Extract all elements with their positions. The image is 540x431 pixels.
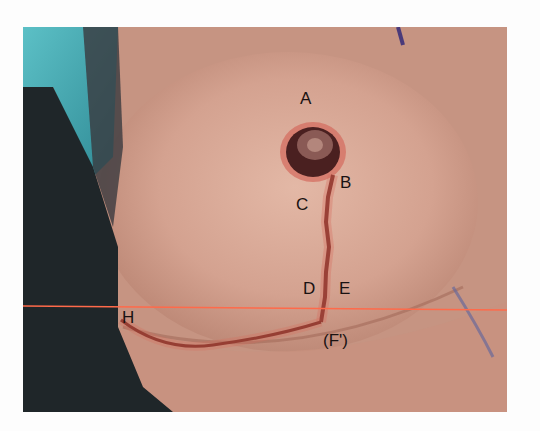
- label-D: D: [303, 280, 315, 297]
- photo-illustration: [23, 27, 507, 412]
- label-C: C: [296, 196, 308, 213]
- label-B: B: [340, 174, 351, 191]
- label-F-prime: (F'): [323, 332, 348, 349]
- clinical-photo: [23, 27, 507, 412]
- label-A: A: [300, 90, 311, 107]
- label-E: E: [339, 280, 350, 297]
- label-H: H: [122, 309, 134, 326]
